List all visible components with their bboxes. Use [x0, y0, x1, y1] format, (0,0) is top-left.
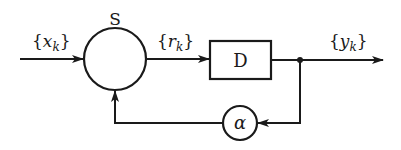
feedback-to-summer-arrow	[115, 91, 223, 123]
summer-label: S	[109, 9, 121, 29]
output-signal-label: {yk}	[329, 31, 368, 54]
gain-label: α	[234, 112, 246, 133]
input-signal-label: {xk}	[32, 31, 71, 54]
delay-label: D	[233, 50, 247, 71]
residual-signal-label: {rk}	[157, 31, 194, 54]
block-diagram: {xk} S {rk} D {yk} α	[0, 0, 401, 150]
summer-node	[84, 28, 146, 90]
feedback-to-gain-arrow	[258, 60, 300, 123]
